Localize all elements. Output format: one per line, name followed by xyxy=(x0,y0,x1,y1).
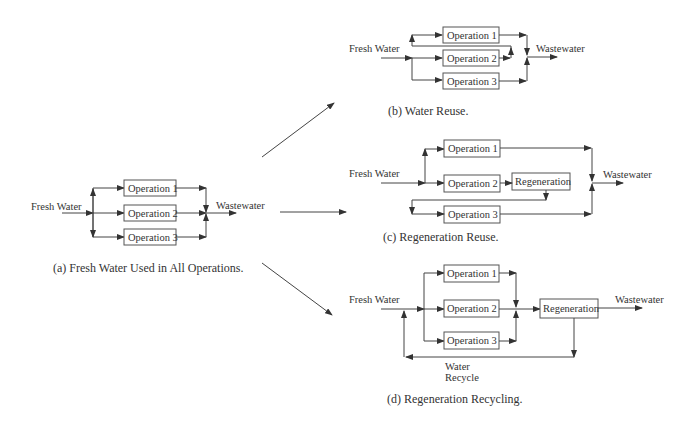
panel-c-inlet-label: Fresh Water xyxy=(349,168,400,179)
panel-c-regeneration-reuse: Fresh Water Operation 1 Operation 2 Rege… xyxy=(349,140,652,244)
panel-d-recycle-label-line2: Recycle xyxy=(445,372,479,383)
panel-a-inlet-label: Fresh Water xyxy=(31,201,82,212)
arrow-to-panel-b xyxy=(262,103,334,157)
panel-a-operation-1-label: Operation 1 xyxy=(128,183,178,194)
panel-d-operation-3-label: Operation 3 xyxy=(447,335,497,346)
panel-c-outlet-label: Wastewater xyxy=(603,169,652,180)
panel-b-operation-2-label: Operation 2 xyxy=(447,53,497,64)
panel-d-outlet-label: Wastewater xyxy=(615,294,664,305)
panel-d-recycle-label-line1: Water xyxy=(445,361,470,372)
panel-a-operation-2-label: Operation 2 xyxy=(128,208,178,219)
panel-b-operation-1-label: Operation 1 xyxy=(447,30,497,41)
panel-d-inlet-label: Fresh Water xyxy=(349,294,400,305)
panel-a-outlet-label: Wastewater xyxy=(216,200,265,211)
panel-a-caption: (a) Fresh Water Used in All Operations. xyxy=(53,261,243,275)
panel-c-operation-3-label: Operation 3 xyxy=(448,209,498,220)
panel-d-regeneration-recycling: Fresh Water Operation 1 Operation 2 Oper… xyxy=(349,265,664,406)
panel-b-operation-3-label: Operation 3 xyxy=(447,76,497,87)
panel-c-caption: (c) Regeneration Reuse. xyxy=(383,230,499,244)
panel-b-inlet-label: Fresh Water xyxy=(349,43,400,54)
panel-b-caption: (b) Water Reuse. xyxy=(388,104,468,118)
panel-d-caption: (d) Regeneration Recycling. xyxy=(387,392,523,406)
panel-b-water-reuse: Fresh Water Operation 1 Operation 2 Oper… xyxy=(349,27,585,118)
panel-d-operation-1-label: Operation 1 xyxy=(447,268,497,279)
panel-c-regeneration-label: Regeneration xyxy=(515,176,572,187)
panel-a-operation-3-label: Operation 3 xyxy=(128,232,178,243)
panel-d-regeneration-label: Regeneration xyxy=(543,303,600,314)
panel-c-operation-2-label: Operation 2 xyxy=(448,178,498,189)
panel-c-operation-1-label: Operation 1 xyxy=(448,143,498,154)
panel-d-operation-2-label: Operation 2 xyxy=(447,303,497,314)
arrow-to-panel-d xyxy=(262,263,332,315)
panel-a-fresh-water-all-operations: Fresh Water Operation 1 Operation 2 Oper… xyxy=(31,180,265,275)
panel-b-outlet-label: Wastewater xyxy=(536,43,585,54)
water-network-diagram: Fresh Water Operation 1 Operation 2 Oper… xyxy=(0,0,691,421)
